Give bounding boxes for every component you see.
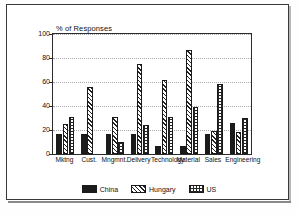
x-tick-label: Technology — [151, 157, 176, 164]
bar — [205, 134, 211, 154]
y-tick-label-80: 80 — [28, 54, 50, 61]
bar-group — [202, 34, 227, 154]
plot-area — [52, 33, 252, 155]
bar-group — [127, 34, 152, 154]
bar — [118, 142, 124, 154]
bar — [137, 64, 143, 154]
legend-swatch — [131, 185, 146, 193]
legend-item: Hungary — [131, 185, 175, 193]
bar-group — [226, 34, 251, 154]
chart-legend: ChinaHungaryUS — [0, 182, 298, 196]
bar — [81, 134, 87, 154]
bar — [56, 134, 62, 154]
legend-label: Hungary — [149, 186, 175, 193]
legend-label: US — [207, 186, 217, 193]
x-tick-label: Delivery — [126, 157, 151, 164]
legend-swatch — [189, 185, 204, 193]
bar — [87, 87, 93, 154]
y-tick-label-60: 60 — [28, 78, 50, 85]
x-tick-label: Sales — [201, 157, 226, 164]
bar-group — [53, 34, 78, 154]
plot-wrapper: % of Responses 020406080100 MktngCust.Mn… — [0, 0, 298, 214]
bar — [230, 123, 236, 154]
legend-item: US — [189, 185, 217, 193]
y-tick-label-40: 40 — [28, 102, 50, 109]
bar — [155, 146, 161, 154]
legend-swatch — [82, 185, 97, 193]
bar-group — [152, 34, 177, 154]
bar — [180, 146, 186, 154]
y-tick-label-20: 20 — [28, 126, 50, 133]
x-tick-label: Engineering — [225, 157, 250, 164]
bar — [143, 125, 149, 154]
bar — [193, 107, 199, 154]
y-axis-tick-labels: 020406080100 — [26, 33, 50, 155]
y-tick-label-100: 100 — [28, 30, 50, 37]
bar — [112, 117, 118, 154]
y-tick-label-0: 0 — [28, 150, 50, 157]
bar — [106, 134, 112, 154]
bar — [168, 117, 174, 154]
bar — [236, 132, 242, 154]
chart-figure: % of Responses 020406080100 MktngCust.Mn… — [0, 0, 298, 214]
x-tick-label: Cust. — [77, 157, 102, 164]
bar — [186, 50, 192, 154]
bar — [69, 117, 75, 154]
bar — [162, 80, 168, 154]
bar — [242, 118, 248, 154]
y-axis-title: % of Responses — [56, 24, 112, 33]
x-tick-label: Mktng — [52, 157, 77, 164]
legend-item: China — [82, 185, 118, 193]
bar-group — [177, 34, 202, 154]
bar — [211, 131, 217, 154]
bar — [131, 134, 137, 154]
bar-group — [103, 34, 128, 154]
x-axis-tick-labels: MktngCust.Mngmnt.DeliveryTechnologyMater… — [30, 157, 270, 169]
bar — [63, 124, 69, 154]
bar-group — [78, 34, 103, 154]
legend-label: China — [100, 186, 118, 193]
x-tick-label: Material — [176, 157, 201, 164]
bar — [217, 84, 223, 154]
x-tick-label: Mngmnt. — [102, 157, 127, 164]
